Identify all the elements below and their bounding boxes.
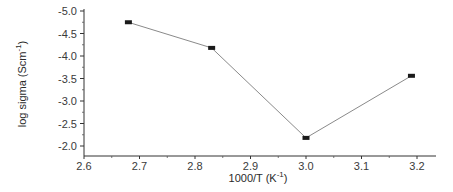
y-tick-label: -4.0: [58, 50, 77, 62]
y-tick-label: -3.5: [58, 73, 77, 85]
y-tick-label: -5.0: [58, 5, 77, 17]
y-tick-label: -2.0: [58, 140, 77, 152]
data-point-marker: [408, 74, 415, 78]
x-tick-label: 2.6: [76, 160, 91, 172]
series-line: [128, 22, 411, 138]
axis-ticks: [80, 11, 417, 159]
y-axis-title: log sigma (Scm-1): [14, 41, 28, 128]
x-tick-label: 2.8: [187, 160, 202, 172]
y-tick-label: -3.0: [58, 95, 77, 107]
data-point-marker: [303, 136, 310, 140]
x-tick-label: 3.0: [298, 160, 313, 172]
data-point-marker: [208, 46, 215, 50]
tick-labels: 2.62.72.82.93.03.13.2-5.0-4.5-4.0-3.5-3.…: [58, 5, 425, 172]
y-tick-label: -2.5: [58, 118, 77, 130]
x-tick-label: 2.7: [132, 160, 147, 172]
axes: [84, 9, 436, 156]
data-point-marker: [125, 20, 132, 24]
x-tick-label: 2.9: [243, 160, 258, 172]
x-tick-label: 3.2: [409, 160, 424, 172]
data-series: [125, 20, 415, 140]
x-axis-title: 1000/T (K-1): [229, 170, 288, 184]
y-tick-label: -4.5: [58, 28, 77, 40]
line-chart: 2.62.72.82.93.03.13.2-5.0-4.5-4.0-3.5-3.…: [0, 0, 453, 192]
x-tick-label: 3.1: [354, 160, 369, 172]
